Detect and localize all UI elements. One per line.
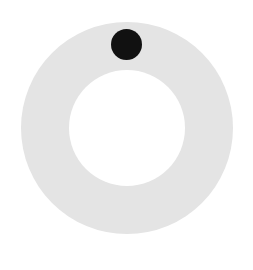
- dial-center: [69, 70, 185, 186]
- dial-knob-handle[interactable]: [111, 29, 142, 60]
